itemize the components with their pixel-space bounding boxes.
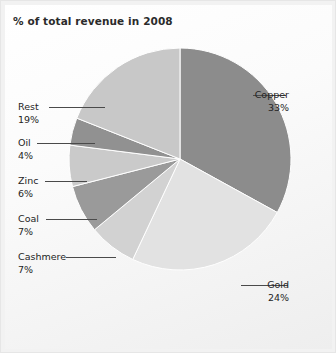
leader-line-rest [49,107,105,108]
callout-zinc-value: 6% [18,188,38,201]
callout-cashmere: Cashmere 7% [18,251,66,276]
callout-zinc-label: Zinc [18,175,38,188]
leader-line-zinc [45,181,87,182]
callout-copper: Copper 33% [233,89,289,114]
callout-coal-label: Coal [18,213,39,226]
leader-line-oil [37,143,95,144]
pie-chart-figure: % of total revenue in 2008 Copper 33% Go… [0,0,336,353]
callout-gold-value: 24% [241,292,289,305]
leader-line-cashmere [66,257,116,258]
callout-rest: Rest 19% [18,101,39,126]
callout-coal: Coal 7% [18,213,39,238]
callout-coal-value: 7% [18,226,39,239]
callout-rest-label: Rest [18,101,39,114]
callout-rest-value: 19% [18,114,39,127]
callout-oil-label: Oil [18,137,33,150]
callout-copper-value: 33% [233,102,289,115]
callout-gold: Gold 24% [241,279,289,304]
callout-zinc: Zinc 6% [18,175,38,200]
callout-cashmere-value: 7% [18,264,66,277]
callout-gold-label: Gold [241,279,289,292]
callout-copper-label: Copper [233,89,289,102]
callout-cashmere-label: Cashmere [18,251,66,264]
pie-slices [69,48,291,270]
callout-oil: Oil 4% [18,137,33,162]
leader-line-coal [46,219,97,220]
callout-oil-value: 4% [18,150,33,163]
